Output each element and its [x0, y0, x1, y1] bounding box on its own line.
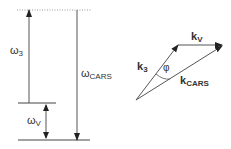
phi-angle-arc	[156, 74, 170, 79]
phi-label: φ	[163, 62, 170, 73]
k3-label: k3	[137, 60, 148, 74]
wave-vector-diagram: k3 kV kCARS φ	[136, 30, 222, 100]
energy-level-diagram: ω3 ωCARS ωV	[10, 10, 112, 140]
kCARS-label: kCARS	[180, 74, 209, 88]
omega3-label: ω3	[10, 44, 24, 58]
cars-diagram: ω3 ωCARS ωV k3 kV kCARS φ	[0, 0, 231, 149]
omegaV-label: ωV	[27, 114, 42, 128]
kV-label: kV	[191, 30, 203, 44]
omegaCARS-label: ωCARS	[81, 67, 112, 81]
kCARS-vector	[136, 46, 222, 100]
